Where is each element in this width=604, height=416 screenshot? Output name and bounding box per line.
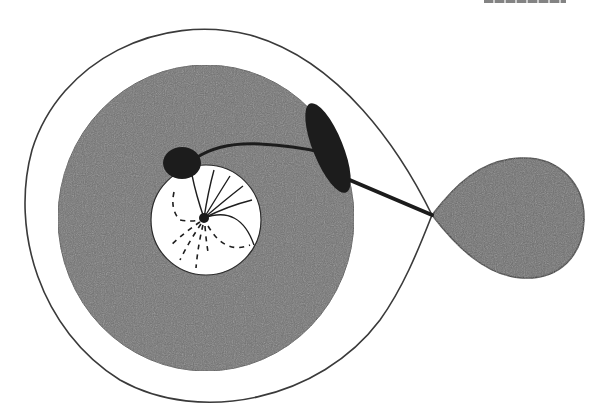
center-dot bbox=[199, 213, 209, 223]
dark-blob bbox=[163, 147, 201, 179]
orbital-diagram bbox=[0, 0, 604, 416]
connector-line bbox=[345, 178, 432, 215]
right-lobe bbox=[432, 158, 584, 278]
